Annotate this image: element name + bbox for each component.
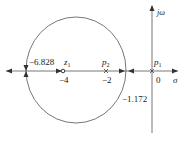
real-axis-label: σ — [173, 75, 178, 85]
zero-label: z1 — [63, 57, 71, 68]
imag-axis-arrow-icon — [150, 5, 155, 11]
left-arrow-icon — [6, 69, 12, 74]
imag-axis-label: jω — [156, 8, 165, 17]
breakpoint-label-left: −6.828 — [29, 57, 55, 67]
arrow-right-breakaway-icon — [119, 69, 125, 74]
arrow-left-breakaway-icon — [128, 69, 134, 74]
breakin-arrow-down-icon — [24, 71, 29, 77]
breakin-arrow-up-icon — [24, 65, 29, 71]
locus-circle — [26, 17, 126, 123]
real-axis-arrow-icon — [172, 69, 178, 74]
zero-value: −4 — [59, 75, 69, 85]
breakpoint-label-right: −1.172 — [122, 94, 147, 104]
pole-p1-label: p1 — [153, 57, 162, 68]
origin-label: 0 — [156, 75, 161, 85]
pole-p2-value: −2 — [102, 75, 112, 85]
pole-p2-label: p2 — [101, 57, 110, 68]
root-locus-diagram: −6.828 −1.172 z1 −4 p2 −2 p1 0 σ jω — [0, 0, 187, 142]
zero-marker-icon — [61, 69, 65, 73]
